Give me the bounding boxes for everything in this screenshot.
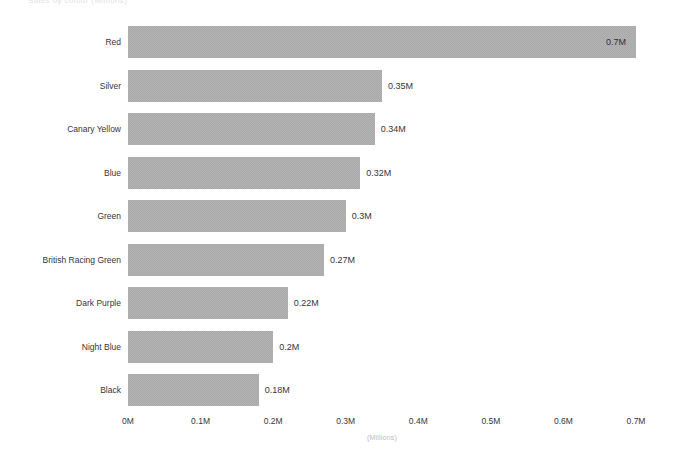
bar[interactable]	[128, 113, 375, 145]
category-label: Canary Yellow	[67, 124, 121, 134]
category-label: Night Blue	[82, 342, 121, 352]
x-tick-label: 0.6M	[554, 416, 573, 426]
bar-row: Night Blue0.2M	[128, 331, 636, 363]
x-tick-label: 0.4M	[409, 416, 428, 426]
bar[interactable]	[128, 287, 288, 319]
category-label: Blue	[104, 168, 121, 178]
bar-row: Silver0.35M	[128, 70, 636, 102]
bar-row: Canary Yellow0.34M	[128, 113, 636, 145]
bar[interactable]	[128, 244, 324, 276]
x-tick-label: 0M	[122, 416, 134, 426]
value-label: 0.27M	[330, 255, 355, 265]
bar-row: Dark Purple0.22M	[128, 287, 636, 319]
value-label: 0.34M	[381, 124, 406, 134]
x-tick-label: 0.1M	[191, 416, 210, 426]
value-label: 0.2M	[279, 342, 299, 352]
value-label: 0.18M	[265, 385, 290, 395]
bar[interactable]	[128, 200, 346, 232]
value-label: 0.7M	[606, 37, 626, 47]
bar[interactable]	[128, 331, 273, 363]
category-label: Black	[100, 385, 121, 395]
bar[interactable]	[128, 374, 259, 406]
x-tick-label: 0.5M	[481, 416, 500, 426]
bar-row: Red0.7M	[128, 26, 636, 58]
bar-row: Black0.18M	[128, 374, 636, 406]
bar-chart: Sales by colour (Millions) Red0.7MSilver…	[0, 0, 674, 475]
bar-row: Green0.3M	[128, 200, 636, 232]
category-label: Red	[105, 37, 121, 47]
bar[interactable]	[128, 26, 636, 58]
category-label: Dark Purple	[76, 298, 121, 308]
category-label: Green	[97, 211, 121, 221]
category-label: Silver	[100, 81, 121, 91]
value-label: 0.3M	[352, 211, 372, 221]
chart-header-text: Sales by colour (Millions)	[28, 0, 127, 5]
value-label: 0.35M	[388, 81, 413, 91]
bar[interactable]	[128, 157, 360, 189]
x-tick-label: 0.7M	[627, 416, 646, 426]
value-label: 0.22M	[294, 298, 319, 308]
x-axis: 0M0.1M0.2M0.3M0.4M0.5M0.6M0.7M	[128, 416, 636, 436]
x-tick-label: 0.3M	[336, 416, 355, 426]
plot-area: Red0.7MSilver0.35MCanary Yellow0.34MBlue…	[128, 26, 636, 410]
value-label: 0.32M	[366, 168, 391, 178]
category-label: British Racing Green	[43, 255, 121, 265]
bar[interactable]	[128, 70, 382, 102]
bar-row: Blue0.32M	[128, 157, 636, 189]
x-tick-label: 0.2M	[264, 416, 283, 426]
bar-row: British Racing Green0.27M	[128, 244, 636, 276]
x-axis-title: (Millions)	[128, 434, 636, 441]
